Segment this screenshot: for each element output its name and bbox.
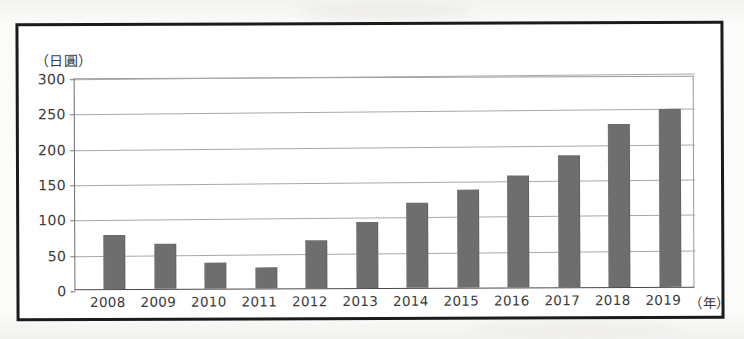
gridline — [75, 109, 695, 116]
bar-2015 — [457, 189, 479, 287]
y-axis-tick — [70, 220, 75, 221]
x-axis-label-2008: 2008 — [90, 294, 126, 310]
gridline — [75, 215, 695, 222]
x-axis-label-2018: 2018 — [595, 292, 631, 308]
x-axis-label-2013: 2013 — [342, 293, 378, 309]
y-axis-tick-label: 300 — [38, 71, 66, 87]
bar-2017 — [558, 155, 581, 287]
y-axis-tick — [70, 79, 75, 80]
bar-2018 — [608, 124, 631, 287]
bar-2013 — [356, 222, 378, 289]
y-axis-tick-label: 50 — [48, 248, 67, 264]
x-axis-unit-label: （年） — [689, 292, 729, 312]
bar-2016 — [507, 176, 529, 288]
x-axis-label-2017: 2017 — [544, 292, 580, 308]
plot-area: 050100150200250300 — [74, 76, 695, 290]
y-axis-tick-label: 200 — [38, 142, 66, 158]
x-axis-label-2012: 2012 — [292, 293, 328, 309]
y-axis-tick — [70, 291, 75, 292]
gridline — [75, 74, 695, 81]
y-axis-tick-label: 150 — [38, 177, 66, 193]
bar-2008 — [103, 235, 125, 289]
bar-2012 — [306, 240, 328, 288]
x-axis-label-2009: 2009 — [140, 294, 176, 310]
y-axis-tick-label: 250 — [38, 106, 66, 122]
bar-2014 — [406, 203, 428, 288]
y-axis-tick — [70, 185, 75, 186]
y-axis-tick — [70, 256, 75, 257]
x-axis-label-2016: 2016 — [494, 292, 530, 308]
x-axis-label-2019: 2019 — [645, 292, 681, 308]
chart-outer-frame: （日圓） 050100150200250300 2008200920102011… — [15, 21, 724, 322]
x-axis-label-2010: 2010 — [191, 294, 227, 310]
y-axis-tick-label: 0 — [57, 283, 66, 299]
y-axis-tick-label: 100 — [38, 212, 66, 228]
scan-smudge-top — [300, 2, 470, 20]
gridline — [75, 144, 695, 151]
bar-2010 — [205, 262, 227, 288]
scan-smudge-bottom — [470, 321, 680, 337]
chart-figure: （日圓） 050100150200250300 2008200920102011… — [18, 24, 727, 325]
bar-2011 — [255, 267, 277, 288]
gridline — [75, 180, 695, 187]
x-axis-label-2015: 2015 — [443, 293, 479, 309]
y-axis-tick — [70, 150, 75, 151]
bar-2019 — [659, 109, 682, 287]
x-axis-label-2014: 2014 — [393, 293, 429, 309]
x-axis-labels-group: 2008200920102011201220132014201520162017… — [18, 24, 726, 27]
bar-2009 — [154, 244, 176, 289]
x-axis-label-2011: 2011 — [241, 293, 277, 309]
gridlines-group — [75, 77, 693, 79]
y-axis-unit-label: （日圓） — [35, 50, 93, 70]
y-axis-tick — [70, 114, 75, 115]
